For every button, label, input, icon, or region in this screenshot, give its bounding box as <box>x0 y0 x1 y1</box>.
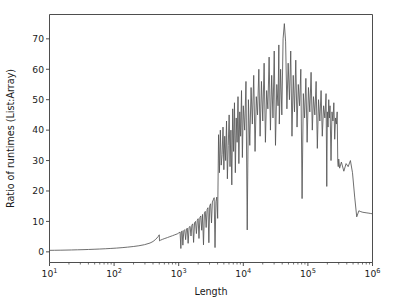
y-tick-label: 10 <box>32 216 44 227</box>
chart-plot-svg: 101102103104105106 010203040506070 Lengt… <box>0 0 398 307</box>
y-tick-label: 50 <box>32 94 44 105</box>
chart-figure: 101102103104105106 010203040506070 Lengt… <box>0 0 398 307</box>
y-tick-label: 40 <box>32 124 44 135</box>
y-tick-label: 70 <box>32 33 44 44</box>
x-axis-title: Length <box>194 286 227 297</box>
y-axis-title: Ratio of runtimes (List:Array) <box>5 69 16 208</box>
y-tick-label: 30 <box>32 155 44 166</box>
y-tick-label: 0 <box>38 246 44 257</box>
plot-background <box>0 0 398 307</box>
y-tick-label: 60 <box>32 64 44 75</box>
y-tick-label: 20 <box>32 185 44 196</box>
